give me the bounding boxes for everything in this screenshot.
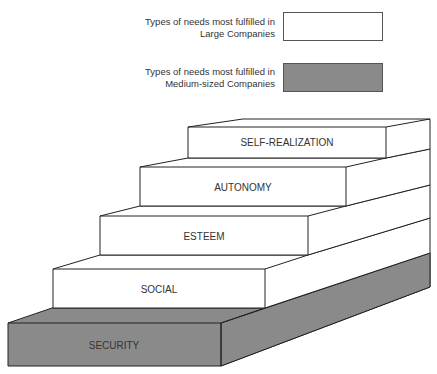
step-label-security: SECURITY: [89, 340, 140, 351]
step-label-esteem: ESTEEM: [183, 231, 224, 242]
step-label-autonomy: AUTONOMY: [214, 182, 272, 193]
step-label-social: SOCIAL: [141, 284, 178, 295]
step-label-self-realization: SELF-REALIZATION: [240, 137, 333, 148]
staircase-diagram: SECURITY SOCIAL ESTEEM AUTONOMY SELF-REA…: [0, 0, 437, 374]
